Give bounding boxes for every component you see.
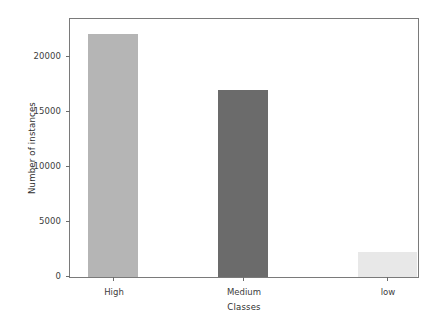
y-tick-10000: 10000 [66,166,70,167]
plot-area: 0 5000 10000 15000 20000 High Medium low [69,18,419,278]
y-tick-label-15000: 15000 [33,105,61,118]
bar-high[interactable] [88,34,138,277]
x-tick-low: low [387,277,388,281]
x-tick-label-medium: Medium [227,286,261,298]
x-tick-label-high: High [104,286,124,298]
y-tick-label-10000: 10000 [33,160,61,173]
x-tick-label-low: low [381,286,396,298]
bar-medium[interactable] [218,90,268,277]
x-axis-title: Classes [69,301,419,313]
y-tick-20000: 20000 [66,56,70,57]
y-tick-0: 0 [66,276,70,277]
x-tick-medium: Medium [243,277,244,281]
y-tick-15000: 15000 [66,111,70,112]
x-tick-high: High [113,277,114,281]
bar-low[interactable] [358,252,417,277]
y-tick-label-0: 0 [55,270,61,283]
y-tick-label-5000: 5000 [39,215,61,228]
y-tick-label-20000: 20000 [33,50,61,63]
bar-chart-figure: Number of instances 0 5000 10000 15000 2… [0,0,438,324]
y-tick-5000: 5000 [66,221,70,222]
